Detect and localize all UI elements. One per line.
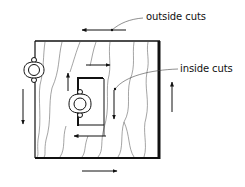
outside-cut-arrows xyxy=(23,30,172,171)
clamp-icon xyxy=(24,58,44,83)
inside-cuts-label: inside cuts xyxy=(180,63,233,74)
clamp-icon xyxy=(69,90,91,118)
leader-lines xyxy=(111,18,178,90)
outside-cuts-label: outside cuts xyxy=(146,11,206,22)
board xyxy=(35,41,160,159)
cutting-direction-diagram xyxy=(0,0,245,187)
wood-grain xyxy=(37,42,148,157)
